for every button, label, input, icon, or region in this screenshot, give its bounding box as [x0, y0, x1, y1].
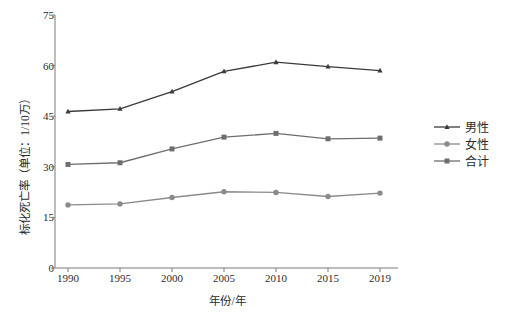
series-合计: [66, 131, 383, 167]
legend-item[interactable]: 女性: [432, 135, 489, 152]
marker-circle: [273, 190, 278, 195]
chart-legend: 男性女性合计: [432, 118, 489, 169]
marker-circle: [169, 195, 174, 200]
marker-circle: [377, 190, 382, 195]
marker-circle: [325, 194, 330, 199]
legend-label: 女性: [465, 135, 489, 153]
legend-label: 合计: [465, 152, 489, 170]
legend-marker-circle-icon: [432, 137, 462, 151]
marker-square: [326, 136, 331, 141]
x-axis-title: 年份/年: [55, 292, 400, 308]
marker-square: [170, 146, 175, 151]
marker-circle: [221, 189, 226, 194]
marker-square: [378, 136, 383, 141]
legend-marker-triangle-icon: [432, 120, 462, 134]
chart-container: 标化死亡率（单位：1/10万） 01530456075 199019952000…: [0, 0, 514, 318]
series-男性: [65, 59, 382, 113]
legend-item[interactable]: 男性: [432, 118, 489, 135]
marker-square: [222, 135, 227, 140]
marker-square: [118, 160, 123, 165]
legend-label: 男性: [465, 118, 489, 136]
marker-circle: [444, 141, 449, 146]
legend-item[interactable]: 合计: [432, 152, 489, 169]
marker-square: [66, 162, 71, 167]
marker-square: [274, 131, 279, 136]
series-女性: [65, 189, 382, 208]
marker-square: [445, 158, 450, 163]
legend-marker-square-icon: [432, 154, 462, 168]
marker-circle: [65, 202, 70, 207]
marker-circle: [117, 201, 122, 206]
